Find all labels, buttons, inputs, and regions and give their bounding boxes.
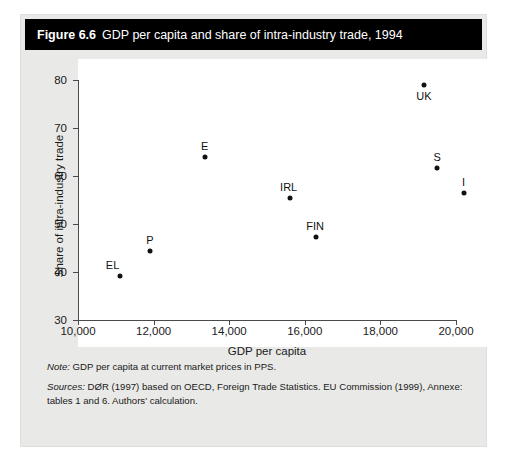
figure-notes: Note: GDP per capita at current market p… xyxy=(47,360,467,414)
y-tick-label: 80 xyxy=(21,74,67,86)
sources-text: DØR (1997) based on OECD, Foreign Trade … xyxy=(47,381,462,406)
note-text: GDP per capita at current market prices … xyxy=(73,361,277,372)
note-lead: Note: xyxy=(47,361,70,372)
y-tick-label: 50 xyxy=(21,218,67,230)
y-tick-label: 70 xyxy=(21,122,67,134)
y-tick-label: 60 xyxy=(21,170,67,182)
sources-lead: Sources: xyxy=(47,381,85,392)
y-tick-label: 30 xyxy=(21,314,67,326)
figure-number: Figure 6.6 xyxy=(37,28,96,42)
plot-panel xyxy=(78,59,507,347)
y-tick-label: 40 xyxy=(21,266,67,278)
figure-title-bar: Figure 6.6 GDP per capita and share of i… xyxy=(25,19,482,50)
y-axis-title: Share of intra-industry trade xyxy=(53,106,65,306)
figure-caption: GDP per capita and share of intra-indust… xyxy=(102,28,403,42)
figure-card: Figure 6.6 GDP per capita and share of i… xyxy=(21,15,486,446)
sources-line: Sources: DØR (1997) based on OECD, Forei… xyxy=(47,380,467,408)
note-line: Note: GDP per capita at current market p… xyxy=(47,360,467,374)
